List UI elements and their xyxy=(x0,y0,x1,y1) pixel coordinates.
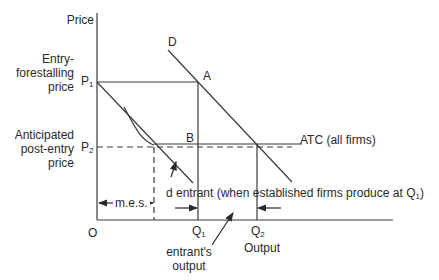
q2-label: Q2 xyxy=(251,224,265,242)
atc-label: ATC (all firms) xyxy=(300,133,376,147)
origin-label: O xyxy=(88,226,97,240)
entrant-output-pointer xyxy=(212,213,233,245)
market-demand-curve xyxy=(168,50,292,182)
limit-pricing-diagram: Price O Output Entry- forestalling price… xyxy=(0,0,439,280)
point-a-label: A xyxy=(203,69,211,83)
mes-label: m.e.s. xyxy=(113,196,150,210)
p1-symbol: P1 xyxy=(81,74,93,92)
x-axis-label: Output xyxy=(244,241,280,255)
entrant-output-line-2: output xyxy=(164,259,214,273)
p2-symbol: P2 xyxy=(81,140,93,158)
q1-label: Q1 xyxy=(192,224,206,242)
p2-desc-line-2: post-entry xyxy=(0,142,74,156)
p1-description: Entry- forestalling price xyxy=(0,52,74,94)
p2-description: Anticipated post-entry price xyxy=(0,128,74,170)
p2-desc-line-3: price xyxy=(0,156,74,170)
y-axis-label: Price xyxy=(44,13,94,27)
market-demand-label: D xyxy=(168,35,177,49)
entrant-output-label: entrant's output xyxy=(164,245,214,273)
p1-desc-line-2: forestalling xyxy=(0,66,74,80)
entrant-demand-label: d entrant (when established firms produc… xyxy=(166,186,424,204)
point-b-label: B xyxy=(186,131,194,145)
p1-desc-line-3: price xyxy=(0,80,74,94)
entrant-demand-curve xyxy=(97,82,193,183)
entrant-output-line-1: entrant's xyxy=(164,245,214,259)
entrant-demand-pointer xyxy=(171,162,176,177)
p1-desc-line-1: Entry- xyxy=(0,52,74,66)
p2-desc-line-1: Anticipated xyxy=(0,128,74,142)
